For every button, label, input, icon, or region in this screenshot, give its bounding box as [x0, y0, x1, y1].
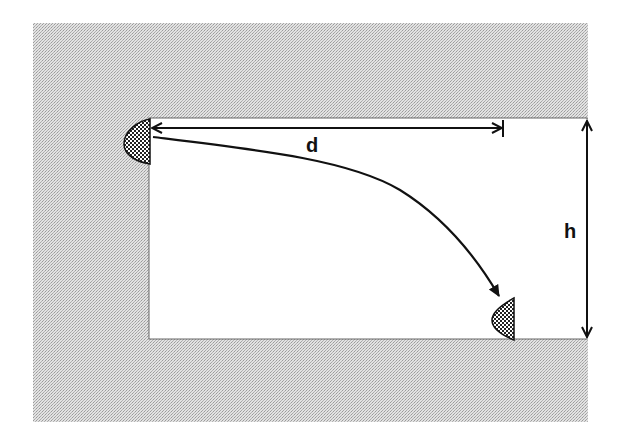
white-panel [149, 118, 587, 339]
distance-label: d [306, 134, 318, 156]
projectile-diagram: d h [0, 0, 625, 438]
height-label: h [564, 220, 576, 242]
